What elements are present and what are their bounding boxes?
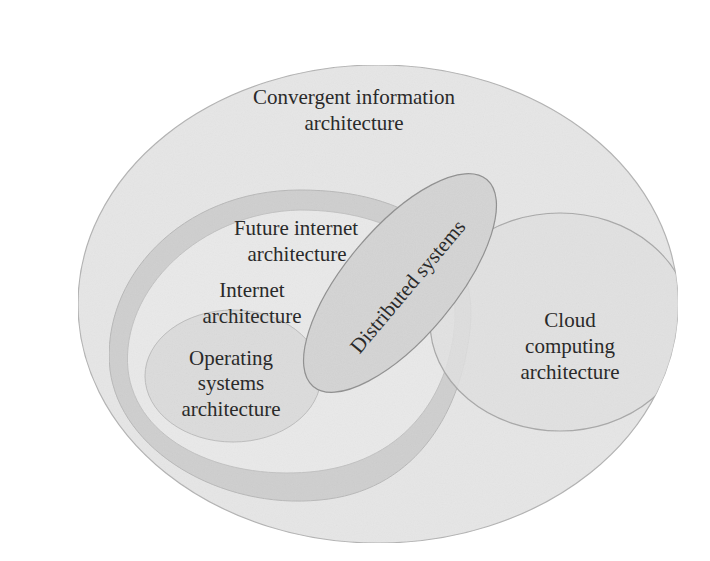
svg-text:Cloud: Cloud bbox=[544, 308, 596, 332]
architecture-venn-diagram: Convergent information architecture Futu… bbox=[0, 0, 710, 561]
svg-text:Convergent information: Convergent information bbox=[253, 85, 455, 109]
svg-text:architecture: architecture bbox=[247, 242, 346, 266]
svg-text:Operating: Operating bbox=[189, 346, 273, 370]
svg-text:architecture: architecture bbox=[304, 111, 403, 135]
svg-text:systems: systems bbox=[198, 371, 265, 395]
svg-text:computing: computing bbox=[525, 334, 615, 358]
svg-text:architecture: architecture bbox=[202, 304, 301, 328]
svg-text:architecture: architecture bbox=[520, 360, 619, 384]
svg-text:Internet: Internet bbox=[219, 278, 284, 302]
svg-text:architecture: architecture bbox=[181, 397, 280, 421]
svg-text:Future internet: Future internet bbox=[234, 216, 358, 240]
